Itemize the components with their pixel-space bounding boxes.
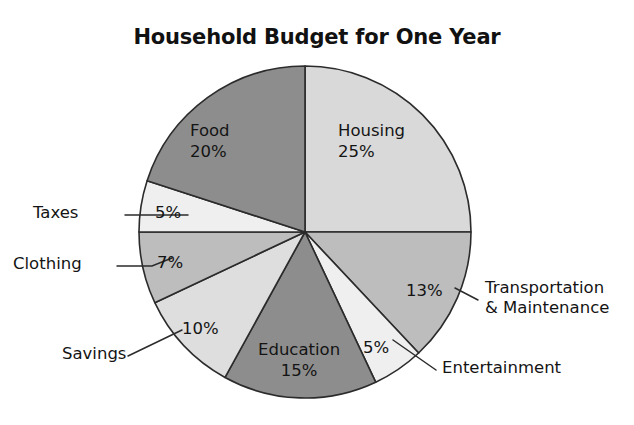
slice-label-clothing-percent: 7%: [157, 252, 183, 273]
callout-label-taxes-text: Taxes: [33, 203, 78, 222]
chart-canvas: Household Budget for One Year Food 20% H…: [0, 0, 634, 425]
slice-label-housing-percent: 25%: [338, 141, 405, 162]
slice-label-education-percent: 15%: [258, 360, 340, 381]
callout-label-transportation: Transportation & Maintenance: [485, 278, 609, 318]
slice-label-transportation-percent: 13%: [406, 280, 443, 301]
leader-line-savings: [128, 330, 182, 356]
callout-label-entertainment-text: Entertainment: [442, 358, 561, 377]
slice-label-housing: Housing 25%: [338, 120, 405, 162]
slice-label-entertainment-percent-wrap: 5%: [363, 337, 389, 358]
slice-label-food-name: Food: [190, 120, 230, 141]
slice-label-food-percent: 20%: [190, 141, 230, 162]
callout-label-entertainment: Entertainment: [442, 358, 561, 378]
slice-label-food: Food 20%: [190, 120, 230, 162]
slice-label-taxes-percent-wrap: 5%: [155, 202, 181, 223]
callout-label-clothing: Clothing: [13, 254, 82, 274]
slice-label-education-name: Education: [258, 339, 340, 360]
slice-label-housing-name: Housing: [338, 120, 405, 141]
slice-label-education: Education 15%: [258, 339, 340, 381]
slice-label-entertainment-percent: 5%: [363, 337, 389, 358]
slice-label-taxes-percent: 5%: [155, 202, 181, 223]
callout-label-transportation-line1: Transportation: [485, 278, 604, 297]
slice-label-savings-percent-wrap: 10%: [182, 318, 219, 339]
callout-label-clothing-text: Clothing: [13, 254, 82, 273]
callout-label-transportation-line2: & Maintenance: [485, 298, 609, 318]
slice-label-savings-percent: 10%: [182, 318, 219, 339]
callout-label-savings: Savings: [62, 344, 126, 364]
callout-label-savings-text: Savings: [62, 344, 126, 363]
slice-label-clothing-percent-wrap: 7%: [157, 252, 183, 273]
callout-label-taxes: Taxes: [33, 203, 78, 223]
slice-label-transportation-percent-wrap: 13%: [406, 280, 443, 301]
